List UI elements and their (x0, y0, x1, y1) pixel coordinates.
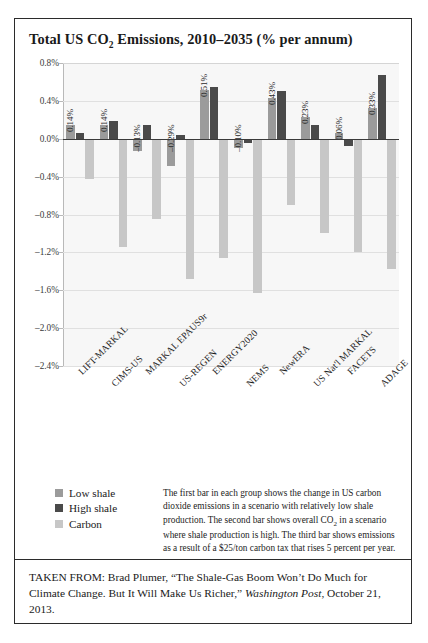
y-axis-tick-label: –2.4% (13, 361, 59, 371)
bar-groups: 0.14%0.14%–0.13%–0.29%0.51%–0.10%0.43%0.… (63, 63, 399, 366)
bar-group: –0.10% (231, 63, 265, 366)
chart-legend: Low shaleHigh shaleCarbon (55, 485, 151, 532)
bar-high (311, 125, 320, 138)
source-attribution: TAKEN FROM: Brad Plumer, “The Shale-Gas … (29, 569, 397, 618)
chart-title-main: Total US CO (29, 31, 109, 47)
bar-carbon (85, 139, 94, 179)
plot-area: 0.8%0.4%0.0%–0.4%–0.8%–1.2%–1.6%–2.0%–2.… (63, 63, 399, 366)
bar-high (143, 125, 152, 138)
y-axis-tick-label: –1.6% (13, 285, 59, 295)
bar-carbon (354, 139, 363, 253)
bar-value-label: 0.43% (267, 82, 277, 105)
bar-group: –0.13% (130, 63, 164, 366)
legend-item: High shale (55, 501, 151, 517)
legend-item-label: High shale (69, 502, 117, 514)
bar-carbon (387, 139, 396, 270)
y-axis-tick-label: –1.2% (13, 247, 59, 257)
bar-group: 0.43% (265, 63, 299, 366)
bar-high (277, 91, 286, 138)
bar-value-label: 0.51% (199, 74, 209, 97)
legend-swatch-icon (55, 520, 63, 528)
y-axis-tick-label: –0.4% (13, 172, 59, 182)
figure-frame: Total US CO2 Emissions, 2010–2035 (% per… (14, 18, 412, 624)
bar-low (200, 90, 209, 138)
zero-axis-line (63, 139, 399, 140)
bar-group: –0.29% (164, 63, 198, 366)
legend-item-label: Low shale (69, 487, 115, 499)
bar-group: 0.23% (298, 63, 332, 366)
bar-value-label: 0.33% (367, 92, 377, 115)
legend-item: Low shale (55, 485, 151, 501)
legend-swatch-icon (55, 504, 63, 512)
bar-carbon (152, 139, 161, 219)
bar-high (109, 121, 118, 139)
bar-group: 0.14% (63, 63, 97, 366)
bar-high (378, 75, 387, 138)
chart-note: The first bar in each group shows the ch… (163, 487, 401, 556)
source-publication: Washington Post (245, 587, 321, 599)
bar-high (210, 87, 219, 139)
legend-item: Carbon (55, 516, 151, 532)
legend-swatch-icon (55, 489, 63, 497)
bar-value-label: 0.23% (300, 101, 310, 124)
y-axis-tick-label: 0.8% (13, 58, 59, 68)
chart-title-rest: Emissions, 2010–2035 (% per annum) (114, 31, 353, 47)
bar-group: 0.14% (97, 63, 131, 366)
y-axis-tick-label: –2.0% (13, 323, 59, 333)
bar-value-label: 0.06% (334, 117, 344, 140)
bar-carbon (320, 139, 329, 234)
x-axis-labels: LIFT-MARKALCIMS-USMARKAL EPAUS9rUS-REGEN… (63, 367, 399, 459)
bar-carbon (186, 139, 195, 279)
y-axis-tick-label: 0.4% (13, 96, 59, 106)
legend-item-label: Carbon (69, 518, 102, 530)
bar-value-label: 0.14% (99, 109, 109, 132)
y-axis-tick-label: 0.0% (13, 134, 59, 144)
bar-value-label: 0.14% (65, 109, 75, 132)
bar-carbon (253, 139, 262, 293)
chart-title: Total US CO2 Emissions, 2010–2035 (% per… (29, 31, 401, 51)
bar-carbon (219, 139, 228, 258)
bar-group: 0.33% (365, 63, 399, 366)
y-axis-tick-label: –0.8% (13, 210, 59, 220)
bar-group: 0.51% (197, 63, 231, 366)
bar-carbon (119, 139, 128, 247)
bar-carbon (287, 139, 296, 205)
bar-group: 0.06% (332, 63, 366, 366)
section-divider (15, 559, 411, 560)
